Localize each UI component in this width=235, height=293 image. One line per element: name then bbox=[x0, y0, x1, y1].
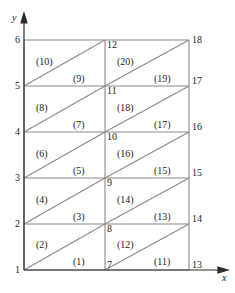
y-tick-label-6: 6 bbox=[15, 35, 20, 45]
node-label-12: 12 bbox=[107, 40, 117, 50]
element-label-3: (3) bbox=[73, 212, 85, 222]
element-label-8: (8) bbox=[36, 103, 48, 113]
element-label-9: (9) bbox=[73, 74, 85, 84]
node-label-8: 8 bbox=[107, 224, 112, 234]
finite-element-mesh-figure: y x 6 5 4 3 2 1 7 8 9 10 11 12 13 14 15 … bbox=[0, 0, 235, 293]
node-label-11: 11 bbox=[107, 86, 117, 96]
element-label-16: (16) bbox=[117, 149, 134, 159]
element-label-2: (2) bbox=[36, 240, 48, 250]
element-label-11: (11) bbox=[154, 257, 170, 267]
y-axis-name: y bbox=[12, 13, 16, 23]
node-label-14: 14 bbox=[192, 214, 202, 224]
y-tick-label-2: 2 bbox=[15, 219, 20, 229]
element-label-19: (19) bbox=[154, 74, 171, 84]
node-label-9: 9 bbox=[107, 178, 112, 188]
element-label-10: (10) bbox=[36, 57, 53, 67]
axes-lines bbox=[21, 13, 228, 273]
y-tick-label-4: 4 bbox=[15, 127, 20, 137]
y-tick-label-1: 1 bbox=[15, 265, 20, 275]
node-label-7: 7 bbox=[107, 260, 112, 270]
element-label-4: (4) bbox=[36, 195, 48, 205]
element-label-20: (20) bbox=[117, 57, 134, 67]
x-axis-name: x bbox=[222, 273, 226, 283]
element-label-5: (5) bbox=[73, 166, 85, 176]
element-label-14: (14) bbox=[117, 195, 134, 205]
y-axis-arrowhead bbox=[21, 13, 27, 23]
element-label-6: (6) bbox=[36, 149, 48, 159]
node-label-18: 18 bbox=[192, 35, 202, 45]
element-label-15: (15) bbox=[154, 166, 171, 176]
y-tick-label-5: 5 bbox=[15, 81, 20, 91]
element-label-1: (1) bbox=[73, 257, 85, 267]
node-label-13: 13 bbox=[192, 260, 202, 270]
element-label-17: (17) bbox=[154, 120, 171, 130]
element-label-12: (12) bbox=[117, 240, 134, 250]
node-label-17: 17 bbox=[192, 76, 202, 86]
element-label-13: (13) bbox=[154, 212, 171, 222]
y-tick-label-3: 3 bbox=[15, 173, 20, 183]
node-label-16: 16 bbox=[192, 122, 202, 132]
element-label-18: (18) bbox=[117, 103, 134, 113]
node-label-15: 15 bbox=[192, 168, 202, 178]
node-label-10: 10 bbox=[107, 132, 117, 142]
element-label-7: (7) bbox=[73, 120, 85, 130]
